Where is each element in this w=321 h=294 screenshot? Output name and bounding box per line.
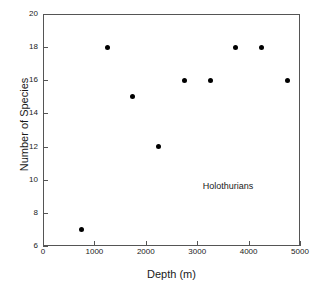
x-axis-tick-label: 0 [23,248,63,256]
x-axis-tick-label: 4000 [229,248,269,256]
series-annotation-label: Holothurians [203,181,254,191]
y-axis-tick-label: 20 [12,10,38,18]
x-axis-tick [197,241,198,246]
y-axis-tick-label: 8 [12,209,38,217]
x-axis-tick [146,241,147,246]
data-point [285,78,290,83]
x-axis-label: Depth (m) [43,268,300,281]
y-axis-tick [43,180,48,181]
y-axis-tick [43,80,48,81]
y-axis-tick [43,213,48,214]
x-axis-tick [94,241,95,246]
x-axis-tick [249,241,250,246]
x-axis-tick-label: 2000 [126,248,166,256]
x-axis-tick [43,241,44,246]
y-axis-tick [43,47,48,48]
y-axis-label: Number of Species [18,45,31,205]
data-point [233,45,238,50]
y-axis-tick [43,14,48,15]
scatter-chart-figure: 68101214161820 010002000300040005000 Hol… [0,0,321,294]
data-point [79,227,84,232]
data-point [259,45,264,50]
y-axis-tick [43,113,48,114]
y-axis-tick [43,147,48,148]
x-axis-tick [300,241,301,246]
data-point [208,78,213,83]
x-axis-tick-label: 1000 [74,248,114,256]
x-axis-tick-label: 3000 [177,248,217,256]
data-point [105,45,110,50]
data-point [182,78,187,83]
x-axis-tick-label: 5000 [280,248,320,256]
